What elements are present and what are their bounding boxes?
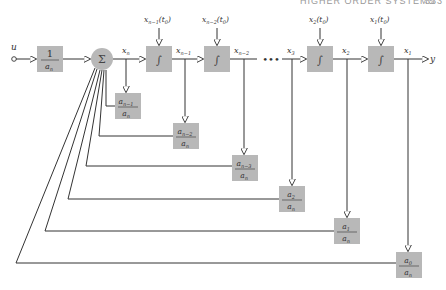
summing-junction: Σ (91, 48, 113, 70)
integral-icon: ∫ (214, 54, 220, 67)
feedback-gain-0: a0 an (396, 252, 422, 278)
feedback-gain-n-1: an−1 an (115, 93, 141, 119)
svg-text:x1: x1 (404, 46, 412, 56)
gain-numerator: 1 (47, 48, 53, 59)
svg-text:xn−1(t0): xn−1(t0) (144, 15, 171, 25)
feedback-gain-2: a2 an (279, 186, 305, 212)
svg-text:xn−2(t0): xn−2(t0) (202, 15, 229, 25)
svg-text:xn−2: xn−2 (234, 46, 249, 56)
integral-icon: ∫ (317, 54, 323, 67)
integrator-2: ∫ (204, 46, 230, 72)
integral-icon: ∫ (378, 54, 384, 67)
feedback-gain-1: a1 an (334, 218, 360, 244)
sigma-icon: Σ (98, 53, 106, 66)
integrator-1: ∫ (146, 46, 172, 72)
input-node: u (11, 42, 17, 61)
ellipsis: ••• (262, 54, 280, 65)
block-diagram: u 1 an Σ xn ∫ xn−1(t0) xn−1 ∫ xn−2(t0) x… (0, 0, 446, 290)
integral-icon: ∫ (156, 54, 162, 67)
integrator-4: ∫ (368, 46, 394, 72)
feedback-gain-n-2: an−2 an (173, 123, 199, 149)
svg-text:xn: xn (122, 46, 130, 56)
svg-text:x3: x3 (287, 46, 295, 56)
feedback-gain-n-3: an−3 an (232, 155, 258, 181)
svg-text:x2: x2 (342, 46, 350, 56)
svg-text:xn−1: xn−1 (176, 46, 191, 56)
integrator-3: ∫ (307, 46, 333, 72)
svg-text:x2(t0): x2(t0) (309, 15, 329, 25)
output-label: y (429, 54, 436, 64)
svg-text:x1(t0): x1(t0) (370, 15, 390, 25)
input-label: u (11, 42, 17, 52)
input-gain-block: 1 an (37, 46, 63, 72)
